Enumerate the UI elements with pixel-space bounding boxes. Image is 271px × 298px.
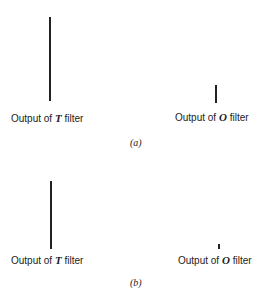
- o-filter-output-bar-b: [218, 244, 220, 249]
- t-filter-label-b: Output of T filter: [11, 254, 83, 266]
- caption-b: (b): [130, 277, 142, 288]
- t-filter-label-a: Output of T filter: [11, 112, 83, 124]
- o-filter-label-a: Output of O filter: [175, 111, 249, 123]
- t-filter-output-bar-b: [50, 181, 52, 249]
- caption-a: (a): [130, 137, 142, 148]
- t-filter-output-bar-a: [49, 17, 51, 101]
- o-filter-label-b: Output of O filter: [178, 254, 252, 266]
- o-filter-output-bar-a: [215, 85, 217, 103]
